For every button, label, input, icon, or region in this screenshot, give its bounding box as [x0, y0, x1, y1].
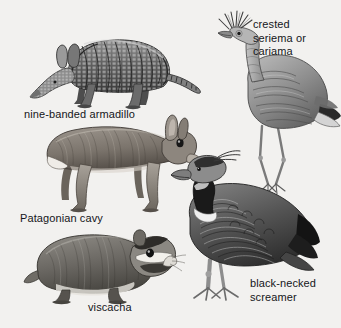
label-black-necked-screamer: black-necked screamer	[250, 277, 316, 304]
label-viscacha: viscacha	[88, 301, 132, 315]
figure-viscacha	[22, 222, 178, 308]
figure-nine-banded-armadillo	[22, 24, 202, 110]
illustration-plate: nine-banded armadillo	[0, 0, 341, 328]
label-crested-seriema: crested seriema or cariama	[253, 18, 306, 59]
